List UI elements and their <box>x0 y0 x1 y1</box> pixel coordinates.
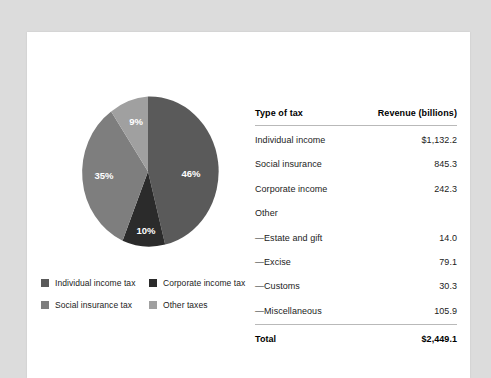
row-label: —Estate and gift <box>255 225 351 249</box>
table-row: —Miscellaneous 105.9 <box>255 298 457 324</box>
total-value: $2,449.1 <box>351 324 457 351</box>
table-row: Social insurance 845.3 <box>255 152 457 176</box>
legend-label: Social insurance tax <box>55 300 132 310</box>
row-value <box>351 201 457 225</box>
legend-swatch-icon <box>41 301 49 309</box>
row-label: Social insurance <box>255 152 351 176</box>
row-value: 30.3 <box>351 274 457 298</box>
pie-label-individual-income-tax: 46% <box>181 168 201 179</box>
tax-revenue-table-block: Type of tax Revenue (billions) Individua… <box>255 108 457 351</box>
table-total-row: Total $2,449.1 <box>255 324 457 351</box>
table-header: Type of tax Revenue (billions) <box>255 108 457 126</box>
table-row: Other <box>255 201 457 225</box>
legend-swatch-icon <box>41 279 49 287</box>
table-row: Corporate income 242.3 <box>255 177 457 201</box>
pie-label-other-taxes: 9% <box>129 116 143 127</box>
pie-chart: 46% 10% 35% 9% <box>77 94 219 249</box>
pie-chart-svg: 46% 10% 35% 9% <box>77 94 219 249</box>
table-header-row: Type of tax Revenue (billions) <box>255 108 457 126</box>
legend-item-individual-income-tax[interactable]: Individual income tax <box>41 278 149 288</box>
column-header-revenue: Revenue (billions) <box>351 108 457 126</box>
document-page: 46% 10% 35% 9% Individual income tax Cor… <box>27 32 470 378</box>
legend-label: Other taxes <box>163 300 208 310</box>
row-value: 242.3 <box>351 177 457 201</box>
table-row: Individual income $1,132.2 <box>255 126 457 153</box>
table-row: —Excise 79.1 <box>255 250 457 274</box>
row-value: 105.9 <box>351 298 457 324</box>
row-value: 79.1 <box>351 250 457 274</box>
row-value: 845.3 <box>351 152 457 176</box>
row-value: $1,132.2 <box>351 126 457 153</box>
row-label: —Miscellaneous <box>255 298 351 324</box>
row-label: Other <box>255 201 351 225</box>
tax-revenue-table: Type of tax Revenue (billions) Individua… <box>255 108 457 351</box>
legend-item-social-insurance-tax[interactable]: Social insurance tax <box>41 300 149 310</box>
table-body: Individual income $1,132.2 Social insura… <box>255 126 457 351</box>
row-label: —Excise <box>255 250 351 274</box>
legend-label: Corporate income tax <box>163 278 245 288</box>
row-label: Corporate income <box>255 177 351 201</box>
pie-label-corporate-income-tax: 10% <box>136 225 156 236</box>
table-row: —Estate and gift 14.0 <box>255 225 457 249</box>
legend-item-other-taxes[interactable]: Other taxes <box>149 300 263 310</box>
legend-item-corporate-income-tax[interactable]: Corporate income tax <box>149 278 263 288</box>
column-header-type-of-tax: Type of tax <box>255 108 351 126</box>
total-label: Total <box>255 324 351 351</box>
row-value: 14.0 <box>351 225 457 249</box>
pie-chart-figure: 46% 10% 35% 9% Individual income tax Cor… <box>41 94 261 364</box>
pie-label-social-insurance-tax: 35% <box>94 170 114 181</box>
legend-label: Individual income tax <box>55 278 135 288</box>
row-label: Individual income <box>255 126 351 153</box>
row-label: —Customs <box>255 274 351 298</box>
legend-swatch-icon <box>149 301 157 309</box>
legend-swatch-icon <box>149 279 157 287</box>
table-row: —Customs 30.3 <box>255 274 457 298</box>
chart-legend: Individual income tax Corporate income t… <box>41 278 263 310</box>
